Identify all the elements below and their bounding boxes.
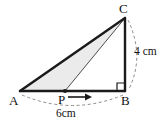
base-length-label: 6cm [56, 108, 76, 120]
vertex-label-p: P [58, 93, 65, 106]
vertex-label-c: C [119, 2, 128, 15]
height-length-label: 4 cm [134, 46, 157, 58]
geometry-figure: A B C P 6cm 4 cm [0, 0, 166, 125]
vertex-label-b: B [121, 94, 130, 107]
geometry-canvas [0, 0, 166, 125]
vertex-label-a: A [9, 94, 18, 107]
motion-arrow-icon [68, 94, 92, 101]
